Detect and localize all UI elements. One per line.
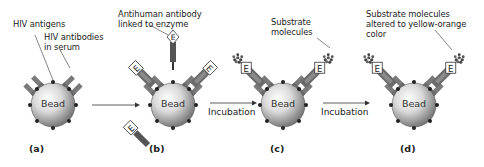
panel-c [226, 48, 340, 130]
annotation-substrate-1: Substrate [271, 17, 311, 27]
annotation-altered-2: altered to yellow-orange [366, 19, 466, 29]
bead-label-b: Bead [153, 98, 193, 109]
annotation-hiv-antibodies-2: in serum [44, 42, 80, 52]
panel-d [357, 48, 471, 130]
bead-label-d: Bead [394, 98, 434, 109]
bead-label-a: Bead [33, 98, 73, 109]
panel-label-c: (c) [270, 143, 284, 154]
annotation-substrate-2: molecules [271, 27, 313, 37]
svg-text:E: E [171, 33, 176, 42]
panel-label-d: (d) [400, 143, 415, 154]
panel-label-a: (a) [29, 143, 44, 154]
arrow-label-incubation-1: Incubation [208, 107, 255, 117]
annotation-altered-1: Substrate molecules [366, 9, 450, 19]
annotation-antihuman-1: Antihuman antibody [118, 9, 202, 19]
bead-label-c: Bead [263, 98, 303, 109]
annotation-altered-3: color [366, 29, 386, 39]
arrow-label-incubation-2: Incubation [321, 107, 368, 117]
annotation-hiv-antigens: HIV antigens [13, 19, 65, 29]
annotation-hiv-antibodies-1: HIV antibodies [44, 32, 103, 42]
annotation-antihuman-2: linked to enzyme [118, 19, 188, 29]
panel-label-b: (b) [149, 143, 164, 154]
